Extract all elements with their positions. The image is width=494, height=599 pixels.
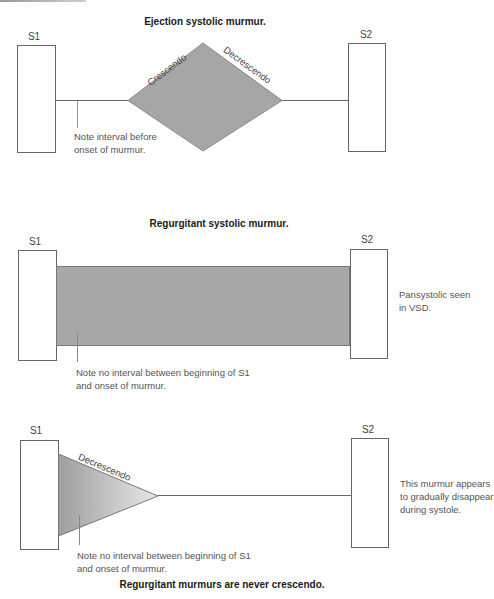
s1-label: S1 xyxy=(29,236,41,247)
panel-title-never-crescendo: Regurgitant murmurs are never crescendo. xyxy=(119,579,324,590)
panel-regurgitant-graphics xyxy=(19,250,388,363)
panel-ejection-graphics xyxy=(18,43,386,153)
s2-box xyxy=(349,44,386,152)
pansystolic-band xyxy=(57,267,350,346)
side-note-text: This murmur appears to gradually disappe… xyxy=(400,477,493,516)
panel-decrescendo-graphics xyxy=(21,439,389,550)
note-text: Note no interval between beginning of S1… xyxy=(76,366,250,392)
s2-label: S2 xyxy=(362,424,374,435)
note-text: Note no interval between beginning of S1… xyxy=(77,549,251,575)
s2-box xyxy=(352,439,389,548)
s1-label: S1 xyxy=(28,31,40,42)
s1-box xyxy=(18,46,56,153)
side-note-text: Pansystolic seen in VSD. xyxy=(399,288,470,314)
s1-box xyxy=(19,251,57,361)
panel-title-regurgitant: Regurgitant systolic murmur. xyxy=(150,218,289,229)
s2-label: S2 xyxy=(360,29,372,40)
s2-box xyxy=(351,250,388,359)
panel-title-ejection: Ejection systolic murmur. xyxy=(144,16,266,27)
s1-label: S1 xyxy=(30,425,42,436)
s1-box xyxy=(21,441,59,550)
s2-label: S2 xyxy=(361,234,373,245)
note-text: Note interval before onset of murmur. xyxy=(74,130,157,156)
